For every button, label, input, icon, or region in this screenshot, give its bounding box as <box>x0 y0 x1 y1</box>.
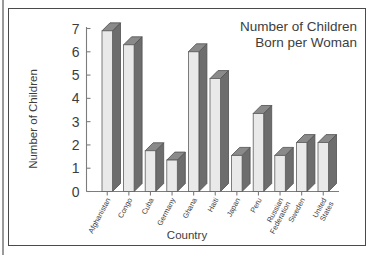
y-tick-label: 3 <box>72 114 80 130</box>
x-tick-label: UnitedStates <box>311 196 336 223</box>
bar-front-face <box>318 143 329 192</box>
bar-side-face <box>307 135 315 192</box>
bar-side-face <box>264 105 272 191</box>
bar-column <box>124 37 143 192</box>
chart-title-line-1: Number of Children <box>240 19 357 34</box>
x-tick-label: Germany <box>155 196 177 227</box>
bar-front-face <box>167 160 178 191</box>
bar-column <box>296 135 315 192</box>
chart-frame: Number of Children Born per Woman Number… <box>8 8 366 246</box>
y-tick-label: 1 <box>72 160 80 176</box>
chart-page: Number of Children Born per Woman Number… <box>0 0 374 255</box>
y-axis-title: Number of Children <box>27 69 39 169</box>
x-tick-label: Afghanistan <box>86 196 112 235</box>
x-tick-label: Japan <box>225 196 242 218</box>
y-tick-label: 2 <box>72 137 80 153</box>
bar-front-face <box>124 45 135 192</box>
bar-front-face <box>232 155 243 191</box>
x-axis: AfghanistanCongoCubaGermanyGhanaHaitiJap… <box>86 192 335 236</box>
bar-front-face <box>210 79 221 192</box>
bar-column <box>167 152 186 191</box>
bar-column <box>145 143 164 192</box>
x-tick-label: Ghana <box>181 195 200 220</box>
y-tick-label: 0 <box>72 184 80 200</box>
x-axis-title: Country <box>167 229 208 241</box>
bar-front-face <box>275 155 286 191</box>
bar-column <box>210 71 229 192</box>
bar-chart: Number of Children Born per Woman Number… <box>9 9 364 244</box>
y-tick-label: 7 <box>72 21 80 37</box>
bar-front-face <box>253 113 264 191</box>
y-tick-label: 5 <box>72 67 80 83</box>
bar-front-face <box>188 52 199 192</box>
y-tick-label: 6 <box>72 44 80 60</box>
chart-title-line-2: Born per Woman <box>255 35 357 50</box>
y-axis: 01234567 <box>72 21 91 200</box>
bar-front-face <box>102 31 113 192</box>
bar-side-face <box>221 71 229 192</box>
bar-column <box>253 105 272 191</box>
bar-column <box>232 147 251 191</box>
bar-column <box>318 135 337 192</box>
bar-front-face <box>145 151 156 192</box>
x-tick-label: Sweden <box>286 196 306 224</box>
x-tick-label: Congo <box>116 196 134 219</box>
bar-side-face <box>329 135 337 192</box>
x-tick-label: Peru <box>248 196 263 214</box>
bar-column <box>102 23 121 192</box>
bar-side-face <box>199 44 207 192</box>
y-tick-label: 4 <box>72 90 80 106</box>
x-tick-label: Cuba <box>139 195 156 216</box>
x-tick-label: Haiti <box>206 196 221 214</box>
bar-column <box>275 147 294 191</box>
bar-side-face <box>113 23 121 192</box>
left-margin-rule <box>2 0 4 255</box>
bar-side-face <box>134 37 142 192</box>
bar-column <box>188 44 207 192</box>
bar-front-face <box>296 143 307 192</box>
